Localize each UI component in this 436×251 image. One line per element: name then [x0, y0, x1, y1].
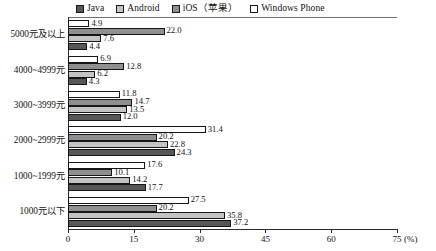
x-axis-tick-label: 60	[327, 234, 336, 244]
bar[interactable]	[68, 78, 87, 85]
x-axis-tick	[265, 229, 266, 233]
bar-row: 6.2	[68, 71, 397, 78]
bar-row: 27.5	[68, 197, 397, 204]
bar-value-label: 14.2	[132, 175, 147, 184]
bar-value-label: 6.9	[100, 54, 111, 63]
y-axis-category-label: 3000~3999元	[14, 100, 65, 110]
x-axis-tick-label: 15	[129, 234, 138, 244]
legend-entry[interactable]: Java	[76, 4, 104, 14]
bar[interactable]	[68, 56, 98, 63]
x-axis-tick	[397, 229, 398, 233]
x-axis-tick	[200, 229, 201, 233]
bar-row: 10.1	[68, 169, 397, 176]
bar-row: 37.2	[68, 220, 397, 227]
bar[interactable]	[68, 20, 89, 27]
bar-value-label: 24.3	[177, 148, 192, 157]
bar[interactable]	[68, 134, 157, 141]
y-axis-category-label: 4000~4999元	[14, 65, 65, 75]
bar[interactable]	[68, 91, 120, 98]
x-axis-tick	[68, 229, 69, 233]
x-axis-tick-label: 0	[66, 234, 71, 244]
bar-value-label: 4.4	[89, 42, 100, 51]
bar[interactable]	[68, 149, 175, 156]
bar-value-label: 20.2	[159, 203, 174, 212]
bar[interactable]	[68, 126, 206, 133]
x-axis-line	[68, 229, 397, 230]
bar-row: 14.7	[68, 99, 397, 106]
bar-row: 4.9	[68, 20, 397, 27]
x-axis-tick	[134, 229, 135, 233]
y-axis-category-label: 1000元以下	[19, 206, 65, 216]
bar-row: 4.4	[68, 43, 397, 50]
bar-value-label: 10.1	[114, 168, 129, 177]
bar-row: 7.6	[68, 35, 397, 42]
x-axis-unit-label: (%)	[404, 234, 418, 244]
bar-value-label: 7.6	[103, 34, 114, 43]
legend-entry[interactable]: Windows Phone	[250, 4, 324, 14]
legend-label: Android	[127, 4, 159, 14]
bar-value-label: 37.2	[233, 218, 248, 227]
legend-entry[interactable]: iOS（苹果）	[172, 4, 238, 14]
bar-row: 11.8	[68, 91, 397, 98]
bar-value-label: 4.9	[91, 19, 102, 28]
grouped-bar-chart: JavaAndroidiOS（苹果）Windows Phone (%) 5000…	[0, 0, 436, 251]
x-axis-tick-label: 75	[393, 234, 402, 244]
y-axis-category-label: 1000~1999元	[14, 171, 65, 181]
bar[interactable]	[68, 169, 112, 176]
bar-row: 17.7	[68, 184, 397, 191]
bar-row: 22.8	[68, 141, 397, 148]
bar[interactable]	[68, 205, 157, 212]
bar[interactable]	[68, 99, 132, 106]
x-axis-tick	[331, 229, 332, 233]
bar-value-label: 17.7	[148, 183, 163, 192]
bar-value-label: 22.0	[167, 26, 182, 35]
bar[interactable]	[68, 63, 124, 70]
bar[interactable]	[68, 106, 127, 113]
bar[interactable]	[68, 114, 121, 121]
bar[interactable]	[68, 141, 168, 148]
bar-row: 12.0	[68, 114, 397, 121]
bar-row: 24.3	[68, 149, 397, 156]
x-axis-tick-label: 30	[195, 234, 204, 244]
bar-row: 6.9	[68, 56, 397, 63]
bar-row: 13.5	[68, 106, 397, 113]
y-axis-category-label: 2000~2999元	[14, 135, 65, 145]
bar[interactable]	[68, 177, 130, 184]
bar-row: 31.4	[68, 126, 397, 133]
bar[interactable]	[68, 162, 145, 169]
bar[interactable]	[68, 28, 165, 35]
legend-label: iOS（苹果）	[183, 4, 238, 14]
legend-swatch-icon	[76, 5, 84, 13]
bar-row: 20.2	[68, 134, 397, 141]
legend-swatch-icon	[116, 5, 124, 13]
bar-row: 14.2	[68, 177, 397, 184]
bar-row: 12.8	[68, 63, 397, 70]
bar-value-label: 12.8	[126, 62, 141, 71]
bar[interactable]	[68, 220, 231, 227]
bar-value-label: 31.4	[208, 125, 223, 134]
legend-label: Windows Phone	[261, 4, 324, 14]
bar-value-label: 27.5	[191, 195, 206, 204]
legend-swatch-icon	[250, 5, 258, 13]
legend-entry[interactable]: Android	[116, 4, 159, 14]
bar-value-label: 4.3	[89, 77, 100, 86]
bar-row: 4.3	[68, 78, 397, 85]
bar[interactable]	[68, 212, 225, 219]
bar-row: 22.0	[68, 28, 397, 35]
bar[interactable]	[68, 43, 87, 50]
legend-label: Java	[87, 4, 104, 14]
x-axis-tick-label: 45	[261, 234, 270, 244]
legend-swatch-icon	[172, 5, 180, 13]
bar-value-label: 17.6	[147, 160, 162, 169]
chart-legend: JavaAndroidiOS（苹果）Windows Phone	[76, 2, 325, 15]
bar[interactable]	[68, 184, 146, 191]
bar-value-label: 12.0	[123, 112, 138, 121]
y-axis-category-label: 5000元及以上	[10, 29, 65, 39]
